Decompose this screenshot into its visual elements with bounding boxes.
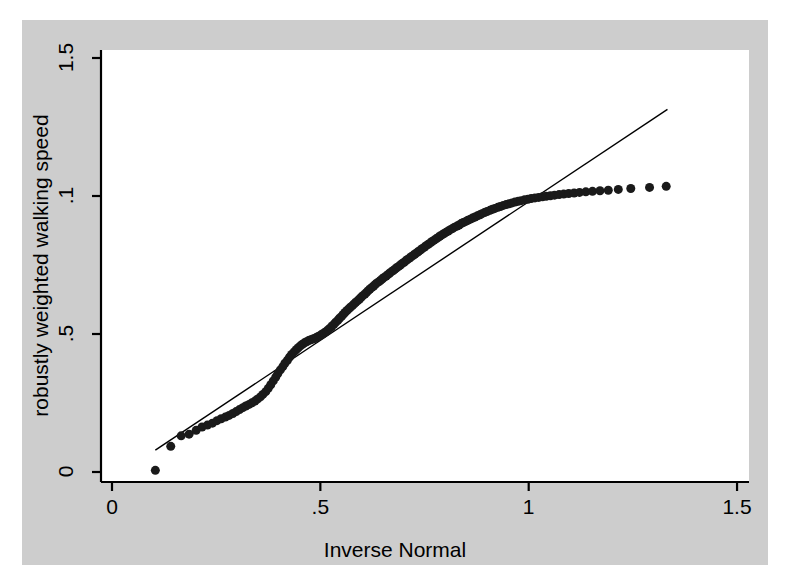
x-tick-label: 1.5 — [717, 496, 757, 517]
plot-region — [101, 50, 749, 482]
x-tick-label: 1 — [509, 496, 549, 517]
y-tick-label: 1.5 — [55, 36, 76, 80]
x-axis-title: Inverse Normal — [0, 539, 790, 560]
y-axis-title: robustly weighted walking speed — [30, 50, 51, 482]
x-tick-label: 0 — [92, 496, 132, 517]
qq-plot-figure: 0.511.5 0.5.11.5 Inverse Normal robustly… — [0, 0, 790, 584]
y-tick-label: .1 — [55, 174, 76, 218]
x-tick-label: .5 — [300, 496, 340, 517]
y-tick-label: .5 — [55, 312, 76, 356]
y-tick-label: 0 — [55, 450, 76, 494]
